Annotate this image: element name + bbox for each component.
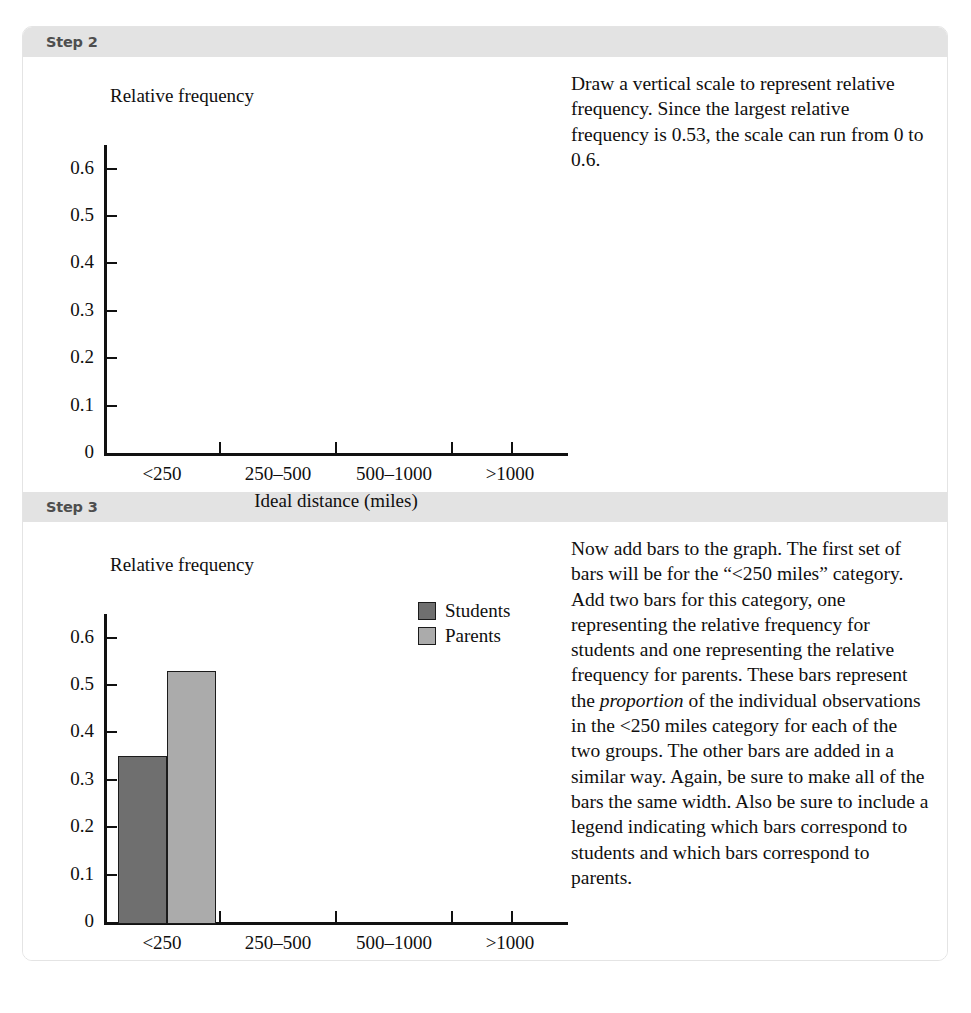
text-column-step2: Draw a vertical scale to represent relat… [568,57,947,492]
y-axis-tick [107,874,117,876]
paragraph-part-b: of the individual observations in the <2… [571,690,928,888]
y-axis-tick-label: 0.6 [70,157,94,179]
y-axis-tick-label: 0.6 [70,626,94,648]
x-axis-tick [511,442,513,453]
y-axis-tick [107,684,117,686]
legend-swatch-icon [418,602,436,620]
paragraph-emphasis: proportion [600,690,684,711]
x-axis-tick [451,442,453,453]
y-axis-tick-label: 0.1 [70,863,94,885]
y-axis-tick-label: 0.1 [70,394,94,416]
y-axis-tick [107,731,117,733]
x-axis-title: Ideal distance (miles) [104,490,568,512]
step-band-step2: Step 2 [23,27,947,57]
y-axis-tick-label: 0 [85,441,95,463]
y-axis-tick-label: 0.3 [70,299,94,321]
chart-title: Relative frequency [110,85,254,107]
x-axis-title: Ideal distance (miles) [104,959,568,961]
y-axis-tick-label: 0.5 [70,673,94,695]
legend-swatch-icon [418,627,436,645]
text-column-step3: Now add bars to the graph. The first set… [568,522,947,960]
chart-step2: Relative frequency0.60.50.40.30.20.10<25… [23,57,568,492]
legend-item: Parents [418,625,510,647]
bar-parents-0 [167,671,216,924]
y-axis-line [104,145,107,456]
lesson-card: Step 2 Relative frequency0.60.50.40.30.2… [22,26,948,961]
chart-title: Relative frequency [110,554,254,576]
section-step2: Relative frequency0.60.50.40.30.20.10<25… [23,57,947,492]
y-axis-tick-label: 0.2 [70,346,94,368]
x-axis-tick [335,911,337,922]
chart-legend: StudentsParents [418,600,510,650]
step-band-label-step2: Step 2 [46,34,98,50]
x-axis-line [104,453,568,456]
y-axis-tick-label: 0.5 [70,204,94,226]
y-axis-line [104,614,107,925]
y-axis-tick-label: 0.2 [70,815,94,837]
x-axis-category-label: 500–1000 [334,463,454,485]
bar-students-0 [118,756,167,924]
x-axis-category-label: <250 [102,463,222,485]
y-axis-tick [107,310,117,312]
y-axis-tick-label: 0.3 [70,768,94,790]
x-axis-category-label: <250 [102,932,222,954]
x-axis-tick [219,442,221,453]
y-axis-tick [107,637,117,639]
y-axis-tick [107,168,117,170]
instruction-paragraph-step3: Now add bars to the graph. The first set… [571,536,929,890]
x-axis-tick [335,442,337,453]
y-axis-tick [107,262,117,264]
x-axis-category-label: 250–500 [218,932,338,954]
x-axis-tick [451,911,453,922]
instruction-paragraph-step2: Draw a vertical scale to represent relat… [571,71,929,172]
y-axis-tick-label: 0 [85,910,95,932]
step-band-label-step3: Step 3 [46,499,98,515]
y-axis-tick [107,405,117,407]
legend-label: Students [445,600,510,622]
y-axis-tick [107,779,117,781]
section-step3: Relative frequency0.60.50.40.30.20.10<25… [23,522,947,960]
x-axis-tick [511,911,513,922]
x-axis-category-label: >1000 [450,932,570,954]
chart-step3: Relative frequency0.60.50.40.30.20.10<25… [23,522,568,960]
legend-item: Students [418,600,510,622]
paragraph-part-a: Now add bars to the graph. The first set… [571,538,907,711]
y-axis-tick-label: 0.4 [70,251,94,273]
x-axis-tick [219,911,221,922]
y-axis-tick [107,826,117,828]
legend-label: Parents [445,625,501,647]
y-axis-tick [107,357,117,359]
y-axis-tick-label: 0.4 [70,720,94,742]
x-axis-category-label: >1000 [450,463,570,485]
chart-column-step3: Relative frequency0.60.50.40.30.20.10<25… [23,522,568,960]
chart-column-step2: Relative frequency0.60.50.40.30.20.10<25… [23,57,568,492]
y-axis-tick [107,215,117,217]
x-axis-category-label: 250–500 [218,463,338,485]
x-axis-category-label: 500–1000 [334,932,454,954]
